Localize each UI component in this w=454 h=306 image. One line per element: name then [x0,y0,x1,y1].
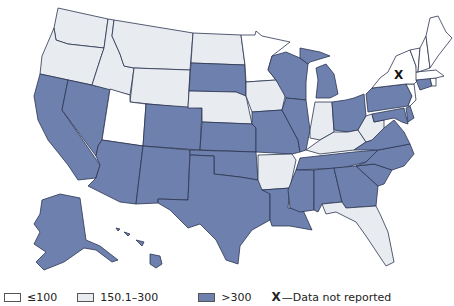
state-wyoming [130,68,190,108]
state-florida [322,202,394,266]
state-colorado [143,104,202,150]
no-data-marker: X [394,68,404,82]
state-alaska [34,194,118,270]
swatch-le100 [4,293,21,302]
swatch-mid [77,293,94,302]
state-montana [112,20,193,70]
swatch-gt300 [198,293,215,302]
state-maine [426,16,452,68]
legend-item-le100: ≤100 [4,291,57,304]
legend: ≤100 150.1–300 >300 X —Data not reported [4,290,411,304]
legend-label-no-data: —Data not reported [282,291,392,304]
legend-label-gt300: >300 [221,291,251,304]
legend-item-mid: 150.1–300 [77,291,158,304]
x-icon: X [271,290,280,304]
legend-item-no-data: X —Data not reported [271,290,391,304]
state-new-mexico [136,146,190,204]
legend-item-gt300: >300 [198,291,251,304]
states [34,8,452,270]
us-choropleth-map: X [0,0,454,286]
legend-label-le100: ≤100 [27,291,57,304]
state-hawaii [116,228,162,268]
state-kansas [200,122,256,152]
legend-label-mid: 150.1–300 [100,291,158,304]
state-north-dakota [191,33,245,65]
